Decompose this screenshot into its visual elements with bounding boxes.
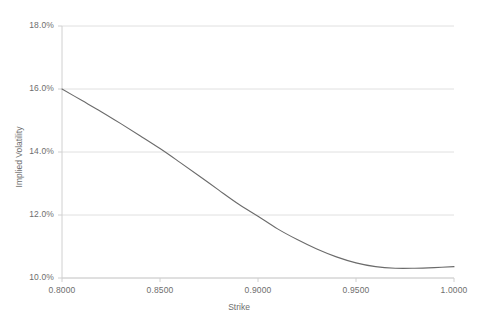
y-axis-tick-label: 10.0% [12, 272, 54, 282]
x-axis-tick-label: 0.9500 [326, 285, 386, 295]
x-axis-tick-label: 0.9000 [228, 285, 288, 295]
x-axis-tick-label: 1.0000 [424, 285, 478, 295]
data-series [62, 89, 454, 268]
y-axis-tick-label: 12.0% [12, 209, 54, 219]
y-axis-tick-label: 16.0% [12, 83, 54, 93]
y-axis-title: Implied Volatility [14, 107, 24, 207]
x-axis-title: Strike [0, 302, 478, 312]
axis-ticks [58, 26, 454, 282]
y-axis-tick-label: 18.0% [12, 20, 54, 30]
x-axis-tick-label: 0.8000 [32, 285, 92, 295]
x-axis-tick-label: 0.8500 [130, 285, 190, 295]
chart-plot-area [0, 0, 478, 324]
implied-volatility-chart: 10.0%12.0%14.0%16.0%18.0% 0.80000.85000.… [0, 0, 478, 324]
series-line-implied-volatility [62, 89, 454, 268]
gridlines [62, 26, 454, 278]
